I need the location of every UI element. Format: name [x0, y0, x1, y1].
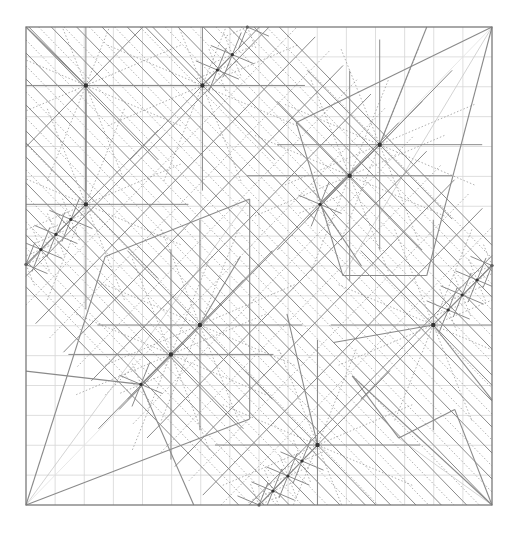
- star-vertex: [139, 383, 142, 386]
- star-vertex: [447, 308, 450, 311]
- star-vertex: [347, 174, 351, 178]
- star-vertex: [84, 83, 88, 87]
- star-vertex: [231, 53, 234, 56]
- star-vertex: [286, 474, 289, 477]
- star-vertex: [431, 323, 435, 327]
- crease-pattern-diagram: [0, 0, 518, 533]
- star-vertex: [475, 278, 478, 281]
- star-vertex: [216, 68, 219, 71]
- star-vertex: [377, 142, 381, 146]
- star-vertex: [315, 443, 319, 447]
- star-vertex: [69, 218, 72, 221]
- star-vertex: [200, 83, 204, 87]
- star-vertex: [271, 489, 274, 492]
- star-vertex: [461, 293, 464, 296]
- star-vertex: [318, 203, 321, 206]
- star-vertex: [300, 459, 303, 462]
- star-vertex: [54, 233, 57, 236]
- star-vertex: [39, 248, 42, 251]
- star-vertex: [84, 202, 88, 206]
- star-vertex: [198, 323, 202, 327]
- star-vertex: [169, 352, 173, 356]
